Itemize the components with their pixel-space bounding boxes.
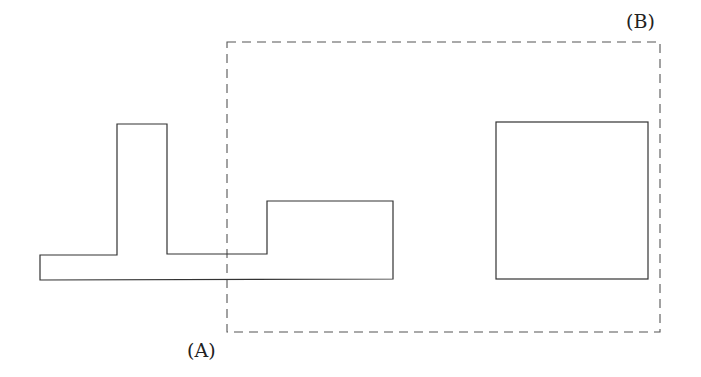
label-b: (B) <box>626 10 655 32</box>
diagram-canvas: (A) (B) <box>0 0 701 377</box>
square-b <box>496 122 648 279</box>
dashed-region-b <box>227 42 660 332</box>
label-a: (A) <box>187 339 216 361</box>
shape-a-outline <box>40 124 393 280</box>
